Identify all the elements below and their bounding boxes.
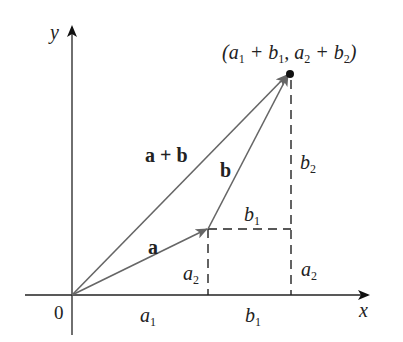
y-axis-label: y — [50, 22, 59, 42]
a2-left-label: a2 — [183, 263, 199, 286]
origin-label: 0 — [54, 303, 64, 322]
sum-point — [286, 70, 294, 78]
b1-axis-label: b1 — [245, 305, 261, 328]
b1-mid-label: b1 — [244, 204, 260, 227]
b2-label: b2 — [300, 152, 316, 175]
x-axis-label: x — [359, 300, 368, 320]
sum-point-label: (a1 + b1, a2 + b2) — [222, 42, 356, 65]
a2-right-label: a2 — [301, 259, 317, 282]
a1-label: a1 — [140, 305, 156, 328]
vector-b-label: b — [220, 160, 231, 180]
vector-a-plus-b — [72, 75, 287, 295]
vector-a-label: a — [148, 237, 158, 257]
vector-a-plus-b-label: a + b — [145, 145, 188, 165]
